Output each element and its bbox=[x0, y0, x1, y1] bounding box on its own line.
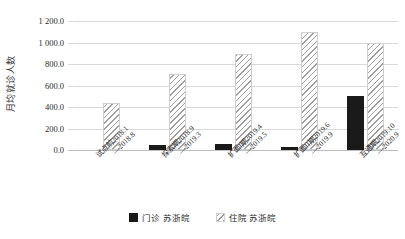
y-axis-tick-label: 1 000.0 bbox=[39, 38, 65, 48]
legend-label: 门诊 苏浙皖 bbox=[142, 211, 189, 223]
y-axis-tick-label: 600.0 bbox=[45, 81, 64, 91]
legend-item-inpatient[interactable]: 住院 苏浙皖 bbox=[216, 211, 276, 223]
x-label-slot: 试点前2018.1—2018.8 bbox=[68, 152, 134, 208]
y-axis-title: 月均就诊人数 bbox=[2, 18, 18, 148]
x-label-slot: 探索期2018.9—2019.3 bbox=[134, 152, 200, 208]
legend-item-outpatient[interactable]: 门诊 苏浙皖 bbox=[129, 211, 189, 223]
bar-outpatient[interactable] bbox=[347, 96, 364, 150]
y-axis-tick-label: 1 200.0 bbox=[39, 16, 65, 26]
x-label-slot: 扩面II期2019.6—2019.9 bbox=[266, 152, 332, 208]
y-axis-tick-label: 400.0 bbox=[45, 102, 64, 112]
x-label-slot: 扩面I期2019.4—2019.5 bbox=[200, 152, 266, 208]
chart-legend: 门诊 苏浙皖住院 苏浙皖 bbox=[0, 207, 405, 227]
legend-swatch-icon bbox=[129, 213, 138, 222]
y-axis-tick-label: 200.0 bbox=[45, 124, 64, 134]
legend-swatch-icon bbox=[216, 213, 225, 222]
y-axis-tick-labels: 0.0200.0400.0600.0800.01 000.01 200.0 bbox=[18, 21, 66, 150]
y-axis-tick-label: 800.0 bbox=[45, 59, 64, 69]
y-axis-title-text: 月均就诊人数 bbox=[4, 55, 17, 112]
y-axis-tick-label: 0.0 bbox=[53, 145, 64, 155]
x-label-slot: 互通期2019.10—2020.9 bbox=[332, 152, 398, 208]
x-axis-category-labels: 试点前2018.1—2018.8探索期2018.9—2019.3扩面I期2019… bbox=[68, 152, 398, 208]
legend-label: 住院 苏浙皖 bbox=[229, 211, 276, 223]
bar-chart: 月均就诊人数 0.0200.0400.0600.0800.01 000.01 2… bbox=[0, 0, 405, 239]
